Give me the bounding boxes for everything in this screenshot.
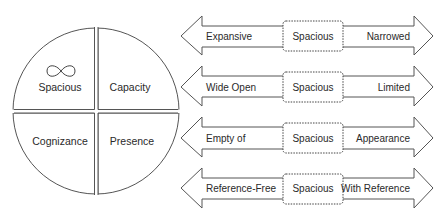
right-label: With Reference [341, 183, 410, 194]
right-label: Appearance [356, 133, 410, 144]
spectrum-arrow-3: Empty of Spacious Appearance [181, 117, 433, 157]
center-label: Spacious [292, 183, 333, 194]
spectrum-arrow-1: Expansive Spacious Narrowed [181, 16, 433, 55]
spectrum-arrow-4: Reference-Free Spacious With Reference [181, 168, 433, 208]
quadrant-top-left [10, 24, 95, 110]
quadrant-bottom-left [10, 113, 95, 199]
left-label: Reference-Free [206, 183, 276, 194]
left-label: Wide Open [206, 82, 256, 93]
diagram-canvas: Spacious Capacity Cognizance Presence Ex… [0, 0, 448, 222]
left-label: Empty of [206, 133, 246, 144]
center-label: Spacious [292, 133, 333, 144]
left-label: Expansive [206, 31, 253, 42]
quadrant-label-capacity: Capacity [110, 81, 152, 93]
spectrum-arrow-2: Wide Open Spacious Limited [181, 66, 433, 106]
center-label: Spacious [292, 31, 333, 42]
quadrant-bottom-right [98, 113, 182, 199]
quadrant-label-presence: Presence [110, 135, 155, 147]
center-label: Spacious [292, 82, 333, 93]
right-label: Narrowed [367, 31, 410, 42]
quadrant-circle: Spacious Capacity Cognizance Presence [10, 24, 182, 199]
quadrant-label-cognizance: Cognizance [32, 135, 88, 147]
quadrant-top-right [98, 24, 182, 110]
quadrant-label-spacious: Spacious [38, 81, 81, 93]
right-label: Limited [378, 82, 410, 93]
